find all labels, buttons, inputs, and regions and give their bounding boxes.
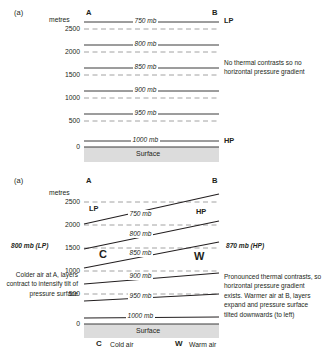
cold-air-marker: C [99, 248, 107, 261]
isobar-label-1000mb: 1000 mb [126, 312, 155, 320]
right-pressure-value: 870 mb (HP) [226, 242, 264, 250]
panel-b-graphic [0, 172, 323, 356]
isobar-label-750mb: 750 mb [128, 210, 153, 218]
point-marker-a: A [86, 177, 91, 186]
warm-air-marker: W [194, 250, 204, 263]
note-thermal-contrast: Pronounced thermal contrasts, so horizon… [224, 272, 322, 319]
tick-label-2500: 2500 [56, 198, 80, 206]
isobar-label-800mb: 800 mb [133, 40, 158, 48]
isobar-label-950mb: 950 mb [133, 109, 158, 117]
legend-label-cold: Cold air [110, 341, 133, 349]
high-pressure-label: HP [224, 137, 234, 146]
legend-key-cold: C [96, 339, 102, 348]
surface-label: Surface [136, 150, 160, 158]
note-no-thermal-contrast: No thermal contrasts so no horizontal pr… [224, 58, 322, 77]
y-axis-title: metres [49, 16, 70, 24]
note-colder-air-a: Colder air at A, layers contract to inte… [6, 270, 78, 298]
tick-label-1500: 1500 [56, 244, 80, 252]
isobar-label-800mb: 800 mb [128, 230, 153, 238]
isobar-label-950mb: 950 mb [128, 292, 153, 300]
tick-label-1000: 1000 [56, 94, 80, 102]
tick-label-1500: 1500 [56, 71, 80, 79]
panel-a-graphic [0, 0, 323, 172]
tick-label-0: 0 [56, 143, 80, 151]
panel-label: (a) [14, 9, 23, 18]
panel-no-thermal-contrast: (a) metres A B 2500 2000 1500 1000 500 0… [0, 0, 323, 172]
high-pressure-label: HP [196, 208, 206, 217]
isobar-label-750mb: 750 mb [133, 17, 158, 25]
legend-key-warm: W [175, 339, 183, 348]
isobar-label-900mb: 900 mb [133, 86, 158, 94]
low-pressure-label: LP [89, 205, 98, 214]
low-pressure-label: LP [224, 17, 233, 26]
left-pressure-value: 800 mb (LP) [11, 242, 48, 250]
isobar-label-850mb: 850 mb [133, 63, 158, 71]
point-marker-b: B [212, 177, 217, 186]
tick-label-500: 500 [56, 117, 80, 125]
isobar-label-900mb: 900 mb [128, 272, 153, 280]
isobar-label-1000mb: 1000 mb [131, 136, 160, 144]
tick-label-2500: 2500 [56, 25, 80, 33]
y-axis-title: metres [49, 189, 70, 197]
point-marker-a: A [86, 9, 91, 18]
legend-label-warm: Warm air [189, 341, 216, 349]
tick-label-2000: 2000 [56, 221, 80, 229]
isobar-label-850mb: 850 mb [128, 249, 153, 257]
panel-thermal-contrast: (a) metres A B 2500 2000 1500 1000 500 0… [0, 172, 323, 356]
panel-label: (a) [14, 177, 23, 186]
tick-label-2000: 2000 [56, 48, 80, 56]
surface-label: Surface [136, 327, 160, 335]
tick-label-0: 0 [56, 320, 80, 328]
point-marker-b: B [212, 9, 217, 18]
